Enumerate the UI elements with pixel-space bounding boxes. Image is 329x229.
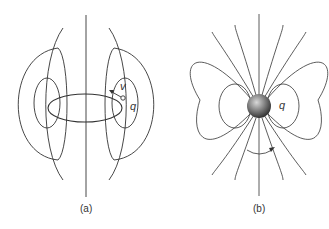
velocity-label: v — [120, 80, 126, 92]
figure: v q (a) q (b) — [0, 0, 329, 229]
caption-a: (a) — [80, 203, 92, 214]
charged-sphere — [247, 94, 271, 118]
charge-label-a: q — [130, 100, 136, 112]
caption-b: (b) — [253, 203, 265, 214]
field-diagram — [0, 0, 329, 229]
charge-label-b: q — [279, 99, 285, 111]
